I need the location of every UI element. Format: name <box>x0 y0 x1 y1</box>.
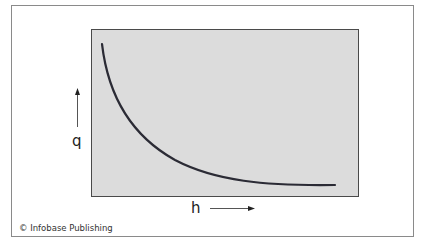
figure: q h © Infobase Publishing <box>0 0 440 251</box>
plot-area <box>91 29 359 197</box>
x-axis-label: h <box>191 201 201 216</box>
y-axis-label: q <box>72 134 82 149</box>
copyright-credit: © Infobase Publishing <box>19 223 113 233</box>
